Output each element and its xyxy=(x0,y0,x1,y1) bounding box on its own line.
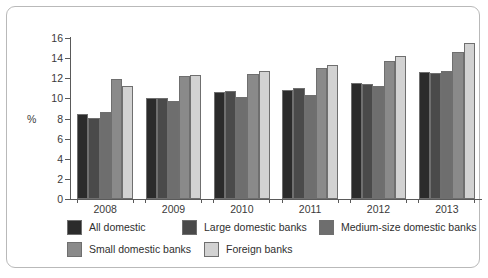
legend-item-label: Large domestic banks xyxy=(204,221,307,233)
y-axis-tick-label-wrap: 0 xyxy=(19,194,63,204)
legend-item-label: Small domestic banks xyxy=(89,243,191,255)
y-axis-tick-label: 12 xyxy=(41,73,63,84)
bar xyxy=(464,43,475,199)
legend-item-label: All domestic xyxy=(89,221,146,233)
x-axis-tick xyxy=(77,199,78,203)
bar xyxy=(441,71,452,199)
bar xyxy=(327,65,338,199)
y-axis-tick-label-wrap: 14 xyxy=(19,53,63,63)
x-axis-tick xyxy=(213,199,214,203)
chart-legend: All domesticLarge domestic banksMedium-s… xyxy=(67,218,479,262)
plot-area xyxy=(71,38,481,199)
bar xyxy=(225,91,236,199)
bar xyxy=(316,68,327,199)
y-axis-tick-label-wrap: 12 xyxy=(19,73,63,83)
y-axis-tick-label-wrap: 8 xyxy=(19,114,63,124)
bar xyxy=(305,95,316,199)
y-axis-tick-label: 4 xyxy=(41,154,63,165)
chart-frame: % 0246810121416 200820092010201120122013… xyxy=(6,6,480,268)
bar xyxy=(122,86,133,199)
x-axis-label: 2013 xyxy=(422,204,472,216)
x-axis-tick xyxy=(269,199,270,203)
y-axis-tick-label: 10 xyxy=(41,93,63,104)
y-axis-tick-label: 2 xyxy=(41,174,63,185)
legend-row: Small domestic banksForeign banks xyxy=(67,240,479,262)
bar xyxy=(146,98,157,199)
x-axis-tick xyxy=(474,199,475,203)
y-axis-tick-label: 16 xyxy=(41,33,63,44)
y-axis-tick-label-wrap: 6 xyxy=(19,134,63,144)
legend-swatch-icon xyxy=(182,220,197,235)
bar xyxy=(282,90,293,199)
bar xyxy=(362,84,373,199)
legend-row: All domesticLarge domestic banksMedium-s… xyxy=(67,218,479,240)
bar xyxy=(430,73,441,199)
bar xyxy=(236,97,247,199)
x-axis-label: 2008 xyxy=(80,204,130,216)
bar xyxy=(157,98,168,199)
bar xyxy=(259,71,270,199)
legend-item[interactable]: Large domestic banks xyxy=(182,219,307,235)
bar xyxy=(168,101,179,199)
y-axis-tick-label: 14 xyxy=(41,53,63,64)
x-axis-tick xyxy=(133,199,134,203)
legend-item-label: Medium-size domestic banks xyxy=(341,221,476,233)
legend-item[interactable]: All domestic xyxy=(67,219,146,235)
x-axis-tick xyxy=(201,199,202,203)
legend-item[interactable]: Medium-size domestic banks xyxy=(319,219,476,235)
legend-swatch-icon xyxy=(204,242,219,257)
bar xyxy=(351,83,362,199)
x-axis-tick xyxy=(282,199,283,203)
bar xyxy=(419,72,430,199)
y-axis-tick-label: 0 xyxy=(41,194,63,205)
bar xyxy=(384,61,395,199)
y-axis-tick-label: 8 xyxy=(41,114,63,125)
y-axis-tick-label-wrap: 10 xyxy=(19,93,63,103)
x-axis-tick xyxy=(350,199,351,203)
legend-item[interactable]: Foreign banks xyxy=(204,241,293,257)
x-axis-tick xyxy=(418,199,419,203)
x-axis-label: 2010 xyxy=(217,204,267,216)
bar xyxy=(373,86,384,199)
bar xyxy=(190,75,201,199)
bar xyxy=(88,118,99,200)
legend-swatch-icon xyxy=(319,220,334,235)
bar xyxy=(452,52,463,199)
x-axis-label: 2012 xyxy=(354,204,404,216)
x-axis-tick xyxy=(338,199,339,203)
x-axis-line xyxy=(70,199,482,200)
bar xyxy=(179,76,190,199)
bar xyxy=(214,92,225,199)
legend-swatch-icon xyxy=(67,242,82,257)
legend-item[interactable]: Small domestic banks xyxy=(67,241,191,257)
x-axis-label: 2009 xyxy=(149,204,199,216)
legend-item-label: Foreign banks xyxy=(226,243,293,255)
x-axis-label: 2011 xyxy=(285,204,335,216)
y-axis-tick xyxy=(65,199,71,200)
bar xyxy=(293,88,304,199)
bar xyxy=(111,79,122,199)
bar xyxy=(247,74,258,199)
x-axis-tick xyxy=(406,199,407,203)
y-axis-tick-label: 6 xyxy=(41,134,63,145)
bar xyxy=(395,56,406,199)
y-axis-tick-label-wrap: 2 xyxy=(19,174,63,184)
bar xyxy=(100,112,111,199)
x-axis-tick xyxy=(145,199,146,203)
y-axis-tick-label-wrap: 4 xyxy=(19,154,63,164)
legend-swatch-icon xyxy=(67,220,82,235)
bar xyxy=(77,114,88,199)
chart-screenshot: % 0246810121416 200820092010201120122013… xyxy=(0,0,488,278)
y-axis-tick-label-wrap: 16 xyxy=(19,33,63,43)
